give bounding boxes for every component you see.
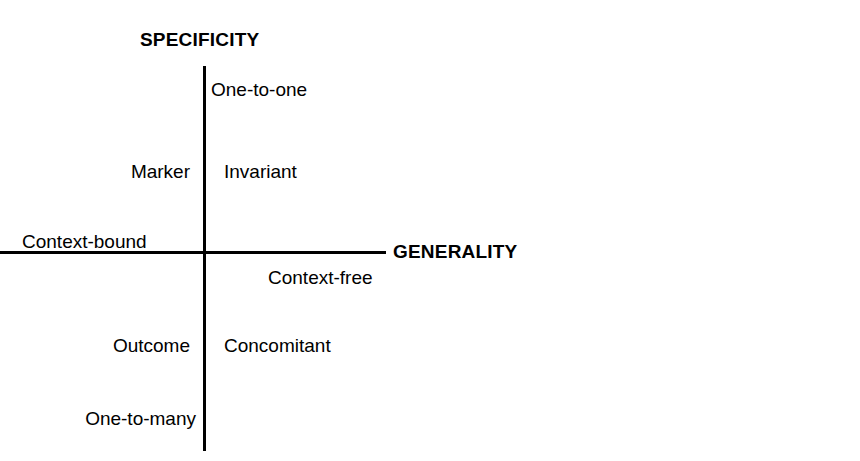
- label-invariant: Invariant: [224, 162, 297, 181]
- vertical-axis-title: SPECIFICITY: [140, 30, 259, 49]
- label-context-bound: Context-bound: [22, 232, 147, 251]
- label-marker: Marker: [40, 162, 190, 181]
- label-concomitant: Concomitant: [224, 336, 331, 355]
- vertical-axis-line: [203, 66, 206, 451]
- label-context-free: Context-free: [268, 268, 373, 287]
- label-one-to-many: One-to-many: [40, 409, 196, 428]
- horizontal-axis-title: GENERALITY: [393, 242, 517, 261]
- quadrant-diagram: SPECIFICITY GENERALITY One-to-one Marker…: [0, 0, 860, 461]
- label-outcome: Outcome: [40, 336, 190, 355]
- label-one-to-one: One-to-one: [211, 80, 307, 99]
